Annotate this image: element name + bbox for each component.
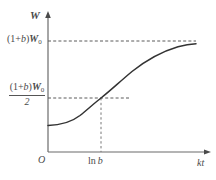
midpoint-value-label: (1+b)W0 2 [7,82,47,107]
numerator-w: W [32,81,41,92]
logistic-curve [48,44,196,126]
numerator-open-paren: (1+ [10,81,24,92]
fraction: (1+b)W0 2 [9,82,46,107]
asymptote-open-paren: (1+ [7,33,21,44]
fraction-numerator: (1+b)W0 [9,82,46,96]
x-axis-label: kt [197,157,204,168]
x-axis [48,149,211,154]
fraction-denominator: 2 [9,96,46,108]
figure-root: W kt O ln b (1+b)W0 (1+b)W0 2 [0,0,216,180]
x-tick-label-lnb: ln b [88,155,103,166]
asymptote-w: W [29,33,38,44]
origin-label: O [38,154,45,165]
numerator-subscript: 0 [41,86,45,94]
y-axis-label: W [30,9,40,21]
lnb-prefix: ln [88,155,96,166]
asymptote-subscript: 0 [38,38,42,46]
lnb-variable: b [98,155,103,166]
asymptote-value-label: (1+b)W0 [7,33,42,46]
